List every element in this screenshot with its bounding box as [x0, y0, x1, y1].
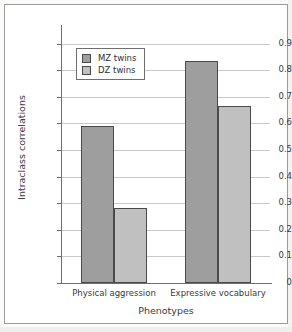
chart-legend: MZ twins DZ twins: [76, 48, 145, 80]
y-tick-label: 0.6: [246, 118, 292, 127]
bar: [81, 126, 114, 283]
y-tick-label: 0.4: [246, 172, 292, 181]
legend-label-dz: DZ twins: [98, 65, 136, 75]
x-category-label: Physical aggression: [62, 288, 166, 298]
x-axis-title: Phenotypes: [62, 305, 270, 316]
y-tick-label: 0.1: [246, 251, 292, 260]
y-tick-label: 0.3: [246, 198, 292, 207]
legend-label-mz: MZ twins: [98, 53, 136, 63]
legend-swatch-mz-icon: [82, 54, 91, 63]
legend-swatch-dz-icon: [82, 66, 91, 75]
y-tick-label: 0.2: [246, 225, 292, 234]
gridline: [62, 44, 270, 45]
gridline: [62, 97, 270, 98]
y-tick-label: 0.7: [246, 92, 292, 101]
y-axis-title: Intraclass correlations: [16, 83, 27, 213]
y-tick-label: 0.9: [246, 39, 292, 48]
y-tick-label: 0.8: [246, 65, 292, 74]
bar: [218, 106, 251, 283]
bar: [185, 61, 218, 283]
legend-item-dz: DZ twins: [82, 64, 136, 76]
y-tick-label: 0.5: [246, 145, 292, 154]
bar-chart: Intraclass correlations 00.10.20.30.40.5…: [0, 0, 292, 332]
x-axis-line: [61, 283, 272, 284]
legend-item-mz: MZ twins: [82, 52, 136, 64]
scanned-page: Intraclass correlations 00.10.20.30.40.5…: [0, 0, 292, 332]
y-axis-line: [61, 25, 62, 284]
x-category-label: Expressive vocabulary: [166, 288, 270, 298]
bar: [114, 208, 147, 283]
